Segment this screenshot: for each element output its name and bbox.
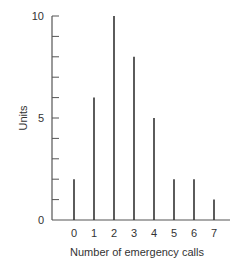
x-tick-label: 1: [91, 227, 97, 239]
x-tick-label: 3: [131, 227, 137, 239]
chart: 051001234567Number of emergency callsUni…: [0, 0, 244, 266]
x-tick-label: 7: [211, 227, 217, 239]
x-tick-label: 4: [151, 227, 157, 239]
y-tick-label: 5: [38, 112, 44, 124]
x-tick-label: 2: [111, 227, 117, 239]
x-tick-label: 6: [191, 227, 197, 239]
x-tick-label: 0: [71, 227, 77, 239]
y-tick-label: 0: [38, 214, 44, 226]
x-axis-title: Number of emergency calls: [70, 246, 204, 258]
y-axis-title: Units: [17, 105, 29, 131]
y-tick-label: 10: [32, 10, 44, 22]
x-tick-label: 5: [171, 227, 177, 239]
